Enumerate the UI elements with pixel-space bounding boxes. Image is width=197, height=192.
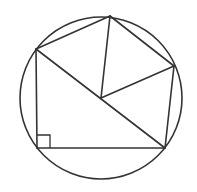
geometry-diagram	[0, 0, 197, 192]
segment-CO	[101, 66, 174, 98]
right-angle-marker	[37, 135, 50, 148]
segment-AB	[36, 16, 110, 49]
segment-BO	[101, 16, 110, 98]
segment-EA	[36, 49, 37, 148]
segment-BC	[110, 16, 174, 66]
